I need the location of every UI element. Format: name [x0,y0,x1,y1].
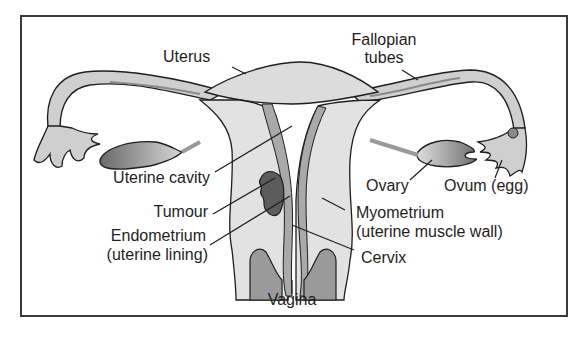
ovum-egg [508,128,518,138]
label-myometrium-line2: (uterine muscle wall) [356,222,503,242]
label-cervix: Cervix [361,248,406,268]
label-fallopian-tubes-line2: tubes [336,48,432,68]
right-fimbriae [478,128,526,176]
label-vagina: Vagina [252,290,332,310]
leader-fallopian [402,70,418,80]
label-uterine-cavity: Uterine cavity [60,168,210,188]
label-ovum: Ovum (egg) [444,176,528,196]
right-ovary [417,140,476,166]
left-fallopian-tube [47,71,225,128]
label-ovary: Ovary [366,176,409,196]
right-ovarian-ligament [370,140,418,155]
diagram-stage: Uterus Fallopian tubes Uterine cavity Tu… [0,0,578,339]
uterus-fundus [205,62,378,104]
label-fallopian-tubes-line1: Fallopian [336,30,432,50]
label-uterus: Uterus [163,47,210,67]
leader-uterus [232,67,246,74]
left-ovarian-ligament [182,142,200,152]
label-endometrium-line2: (uterine lining) [40,245,208,265]
label-endometrium-line1: Endometrium [40,226,206,246]
left-fimbriae [34,126,100,167]
left-ovary [100,142,182,169]
label-myometrium-line1: Myometrium [356,203,444,223]
leader-ovary [410,160,432,180]
label-tumour: Tumour [60,202,208,222]
